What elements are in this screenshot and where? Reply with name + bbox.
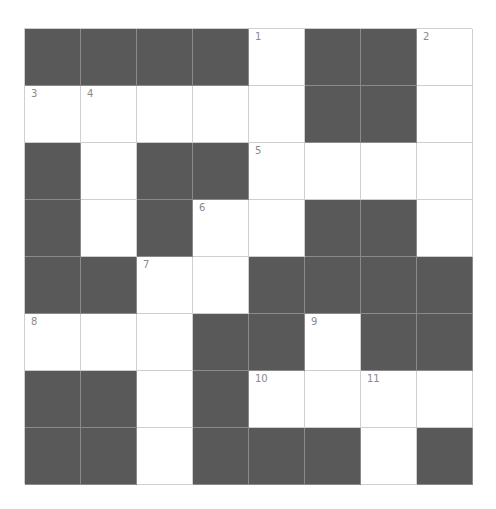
answer-cell[interactable] bbox=[361, 143, 417, 200]
clue-number: 9 bbox=[311, 317, 317, 327]
answer-cell[interactable] bbox=[137, 371, 193, 428]
answer-cell[interactable]: 9 bbox=[305, 314, 361, 371]
block-cell bbox=[193, 29, 249, 86]
block-cell bbox=[25, 257, 81, 314]
answer-cell[interactable] bbox=[249, 200, 305, 257]
block-cell bbox=[137, 200, 193, 257]
block-cell bbox=[361, 86, 417, 143]
answer-cell[interactable]: 7 bbox=[137, 257, 193, 314]
block-cell bbox=[249, 257, 305, 314]
block-cell bbox=[193, 428, 249, 485]
clue-number: 6 bbox=[199, 203, 205, 213]
answer-cell[interactable] bbox=[417, 371, 473, 428]
clue-number: 4 bbox=[87, 89, 93, 99]
answer-cell[interactable] bbox=[417, 86, 473, 143]
block-cell bbox=[25, 371, 81, 428]
answer-cell[interactable] bbox=[417, 143, 473, 200]
block-cell bbox=[81, 371, 137, 428]
block-cell bbox=[25, 200, 81, 257]
answer-cell[interactable] bbox=[193, 257, 249, 314]
block-cell bbox=[249, 314, 305, 371]
block-cell bbox=[193, 143, 249, 200]
block-cell bbox=[249, 428, 305, 485]
answer-cell[interactable]: 10 bbox=[249, 371, 305, 428]
block-cell bbox=[193, 371, 249, 428]
block-cell bbox=[361, 314, 417, 371]
clue-number: 3 bbox=[31, 89, 37, 99]
answer-cell[interactable]: 8 bbox=[25, 314, 81, 371]
block-cell bbox=[25, 143, 81, 200]
clue-number: 11 bbox=[367, 374, 380, 384]
answer-cell[interactable] bbox=[305, 143, 361, 200]
answer-cell[interactable]: 6 bbox=[193, 200, 249, 257]
answer-cell[interactable] bbox=[193, 86, 249, 143]
block-cell bbox=[305, 29, 361, 86]
clue-number: 8 bbox=[31, 317, 37, 327]
block-cell bbox=[81, 257, 137, 314]
answer-cell[interactable] bbox=[305, 371, 361, 428]
block-cell bbox=[361, 200, 417, 257]
answer-cell[interactable]: 11 bbox=[361, 371, 417, 428]
answer-cell[interactable] bbox=[361, 428, 417, 485]
answer-cell[interactable] bbox=[137, 314, 193, 371]
clue-number: 2 bbox=[423, 32, 429, 42]
block-cell bbox=[361, 29, 417, 86]
clue-number: 5 bbox=[255, 146, 261, 156]
crossword-grid: 1234567891011 bbox=[24, 28, 472, 484]
answer-cell[interactable] bbox=[137, 86, 193, 143]
block-cell bbox=[25, 428, 81, 485]
block-cell bbox=[305, 257, 361, 314]
answer-cell[interactable]: 1 bbox=[249, 29, 305, 86]
block-cell bbox=[305, 86, 361, 143]
answer-cell[interactable] bbox=[81, 200, 137, 257]
block-cell bbox=[417, 257, 473, 314]
answer-cell[interactable] bbox=[417, 200, 473, 257]
answer-cell[interactable]: 2 bbox=[417, 29, 473, 86]
answer-cell[interactable] bbox=[249, 86, 305, 143]
answer-cell[interactable] bbox=[81, 314, 137, 371]
block-cell bbox=[81, 29, 137, 86]
answer-cell[interactable]: 3 bbox=[25, 86, 81, 143]
block-cell bbox=[361, 257, 417, 314]
answer-cell[interactable]: 5 bbox=[249, 143, 305, 200]
block-cell bbox=[193, 314, 249, 371]
clue-number: 1 bbox=[255, 32, 261, 42]
clue-number: 10 bbox=[255, 374, 268, 384]
answer-cell[interactable] bbox=[81, 143, 137, 200]
answer-cell[interactable]: 4 bbox=[81, 86, 137, 143]
block-cell bbox=[305, 428, 361, 485]
block-cell bbox=[81, 428, 137, 485]
answer-cell[interactable] bbox=[137, 428, 193, 485]
block-cell bbox=[305, 200, 361, 257]
block-cell bbox=[417, 314, 473, 371]
block-cell bbox=[25, 29, 81, 86]
clue-number: 7 bbox=[143, 260, 149, 270]
block-cell bbox=[137, 29, 193, 86]
block-cell bbox=[137, 143, 193, 200]
block-cell bbox=[417, 428, 473, 485]
